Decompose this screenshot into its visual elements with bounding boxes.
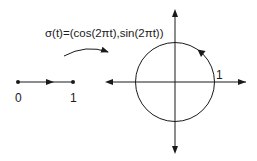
y-axis-up-arrow-icon: [172, 9, 178, 17]
interval-start-dot: [16, 80, 20, 84]
parametrization-diagram: σ(t)=(cos(2πt),sin(2πt)) 0 1 1: [0, 0, 257, 161]
unit-interval: 0 1: [15, 79, 77, 105]
interval-direction-arrow-icon: [46, 79, 54, 85]
interval-start-label: 0: [15, 91, 22, 105]
x-axis-left-arrow-icon: [105, 79, 113, 85]
interval-end-label: 1: [70, 91, 77, 105]
mapping-arrow-icon: [64, 49, 108, 56]
interval-end-dot: [71, 80, 75, 84]
radius-label: 1: [216, 68, 223, 82]
x-axis-right-arrow-icon: [238, 79, 246, 85]
formula-label: σ(t)=(cos(2πt),sin(2πt)): [45, 27, 164, 39]
y-axis-down-arrow-icon: [172, 146, 178, 154]
